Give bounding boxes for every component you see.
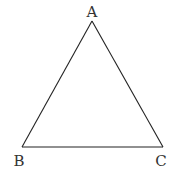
edge-ab (22, 21, 92, 147)
vertex-label-a: A (86, 3, 98, 21)
triangle-diagram: A B C (0, 0, 180, 176)
edge-ca (92, 21, 163, 147)
vertex-label-c: C (155, 152, 166, 170)
vertex-label-b: B (13, 152, 24, 170)
